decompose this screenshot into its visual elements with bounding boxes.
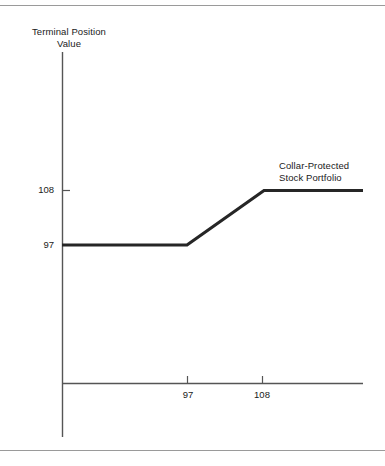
series-line-collar-protected-stock-portfolio <box>62 191 363 246</box>
plot-area <box>0 0 385 466</box>
figure-container: Terminal Position Value Collar-Protected… <box>0 0 385 466</box>
